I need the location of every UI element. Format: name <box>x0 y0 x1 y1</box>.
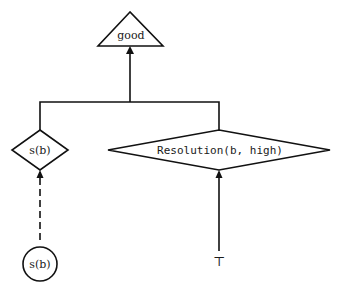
goal-node: good <box>98 12 163 46</box>
top-symbol: ⊤ <box>213 254 225 269</box>
edge-sb-circle-to-sb-diamond <box>37 170 44 240</box>
edge-top-to-resolution <box>216 170 223 251</box>
goal-label: good <box>117 29 144 42</box>
argument-diagram: good s(b) Resolution(b, high) s(b) ⊤ <box>0 0 342 294</box>
edge-join-bar <box>40 102 219 130</box>
resolution-label: Resolution(b, high) <box>157 144 283 157</box>
sb-circle-label: s(b) <box>29 258 50 271</box>
sb-diamond-label: s(b) <box>29 144 50 157</box>
sb-diamond-node: s(b) <box>12 130 68 170</box>
edge-join-to-goal <box>126 46 134 102</box>
sb-circle-node: s(b) <box>23 247 57 281</box>
resolution-node: Resolution(b, high) <box>108 130 330 170</box>
